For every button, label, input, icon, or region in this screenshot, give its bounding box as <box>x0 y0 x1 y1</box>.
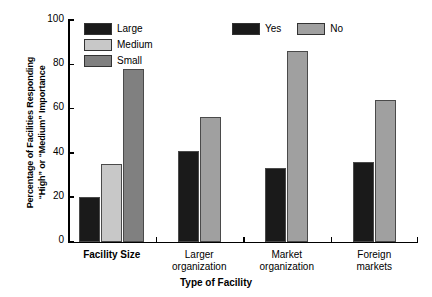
legend-item-medium: Medium <box>84 38 153 51</box>
legend-item-yes: Yes <box>232 22 281 35</box>
bar-facility-size-medium <box>101 164 122 242</box>
x-tick-4 <box>417 237 419 243</box>
legend-item-no: No <box>297 22 343 35</box>
y-tick-40: 40 <box>68 152 74 154</box>
legend-yes-no: YesNo <box>232 22 343 35</box>
bar-facility-size-large <box>79 197 100 241</box>
bar-larger-organization-yes <box>178 151 199 242</box>
bar-market-organization-yes <box>265 168 286 241</box>
y-tick-label-40: 40 <box>38 146 64 158</box>
y-tick-60: 60 <box>68 108 74 110</box>
category-label-facility-size: Facility Size <box>68 249 156 261</box>
y-tick-80: 80 <box>68 64 74 66</box>
x-tick-0 <box>68 237 70 243</box>
x-tick-2 <box>243 237 245 243</box>
legend-swatch-yes <box>232 23 260 35</box>
legend-swatch-small <box>84 55 112 67</box>
y-tick-label-60: 60 <box>38 101 64 113</box>
bar-chart: Percentage of Facilities Responding “Hig… <box>0 0 432 297</box>
legend-swatch-medium <box>84 39 112 51</box>
y-tick-label-0: 0 <box>38 234 64 246</box>
x-tick-1 <box>156 237 158 243</box>
y-tick-label-100: 100 <box>38 13 64 25</box>
y-tick-100: 100 <box>68 19 74 21</box>
x-tick-3 <box>331 237 333 243</box>
legend-swatch-no <box>297 23 325 35</box>
legend-label-small: Small <box>117 55 142 67</box>
legend-item-small: Small <box>84 54 153 67</box>
legend-label-yes: Yes <box>265 23 281 35</box>
bar-foreign-markets-yes <box>353 162 374 242</box>
bar-facility-size-small <box>123 69 144 242</box>
category-label-market-organization: Market organization <box>243 249 331 273</box>
legend-swatch-large <box>84 23 112 35</box>
legend-label-medium: Medium <box>117 39 153 51</box>
x-axis-title: Type of Facility <box>0 277 432 288</box>
bar-foreign-markets-no <box>375 100 396 242</box>
category-label-foreign-markets: Foreign markets <box>331 249 419 273</box>
legend-facility-size: LargeMediumSmall <box>84 22 153 67</box>
y-axis-title: Percentage of Facilities Responding “Hig… <box>25 18 48 248</box>
legend-label-large: Large <box>117 23 143 35</box>
y-axis-line <box>68 20 70 243</box>
bar-market-organization-no <box>287 51 308 241</box>
category-label-larger-organization: Larger organization <box>156 249 244 273</box>
legend-item-large: Large <box>84 22 153 35</box>
bar-larger-organization-no <box>200 117 221 241</box>
y-tick-20: 20 <box>68 196 74 198</box>
legend-label-no: No <box>330 23 343 35</box>
y-tick-label-80: 80 <box>38 57 64 69</box>
y-tick-label-20: 20 <box>38 190 64 202</box>
